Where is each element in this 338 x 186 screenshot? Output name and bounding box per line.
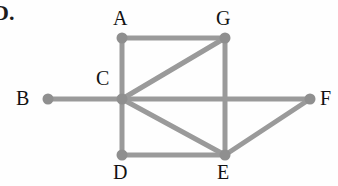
graph-node-label-b: B	[16, 88, 29, 108]
graph-node-c	[117, 94, 128, 105]
graph-node-label-f: F	[320, 88, 331, 108]
graph-node-label-e: E	[217, 162, 229, 182]
graph-node-label-d: D	[113, 162, 127, 182]
graph-canvas	[0, 0, 338, 186]
graph-node-label-g: G	[216, 8, 230, 28]
graph-node-e	[220, 150, 231, 161]
graph-node-label-a: A	[113, 8, 127, 28]
graph-node-d	[117, 150, 128, 161]
graph-edge-c-g	[122, 38, 225, 99]
graph-node-label-c: C	[96, 68, 109, 88]
graph-node-g	[220, 33, 231, 44]
graph-edge-e-f	[225, 99, 310, 155]
graph-node-f	[305, 94, 316, 105]
graph-node-b	[43, 94, 54, 105]
graph-edge-c-e	[122, 99, 225, 155]
graph-edges	[48, 38, 310, 155]
graph-node-a	[117, 33, 128, 44]
graph-figure: D. ABCDEFG	[0, 0, 338, 186]
